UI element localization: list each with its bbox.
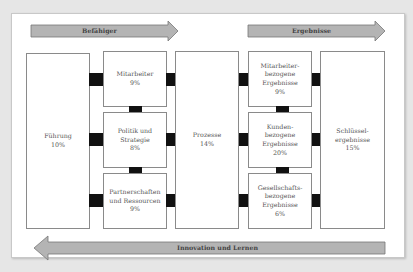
box-schluessel-label: Schlüssel- ergebnisse 15% — [335, 127, 370, 153]
innovation-arrow-label: Innovation und Lernen — [50, 244, 385, 251]
connector — [129, 167, 142, 173]
box-prozesse-label: Prozesse 14% — [193, 131, 221, 148]
box-kunden-ergebnisse-label: Kunden- bezogene Ergebnisse 20% — [262, 123, 298, 157]
box-mitarbeiter-ergebnisse-label: Mitarbeiter- bezogene Ergebnisse 9% — [261, 62, 300, 96]
connector — [312, 133, 320, 146]
box-mitarbeiter-label: Mitarbeiter 9% — [117, 70, 154, 87]
connector — [239, 73, 248, 86]
connector — [89, 133, 103, 146]
box-partnerschaften: Partnerschaften und Ressourcen 9% — [103, 173, 167, 229]
connector — [166, 73, 175, 86]
connector — [239, 133, 248, 146]
box-gesellschaft-ergebnisse: Gesellschafts- bezogene Ergebnisse 6% — [248, 173, 312, 229]
connector — [276, 167, 289, 173]
box-politik-strategie: Politik und Strategie 8% — [103, 112, 167, 168]
connector — [89, 73, 103, 86]
box-schluesselergebnisse: Schlüssel- ergebnisse 15% — [320, 51, 385, 229]
box-gesellschaft-ergebnisse-label: Gesellschafts- bezogene Ergebnisse 6% — [258, 184, 303, 218]
connector — [129, 106, 142, 112]
box-mitarbeiter: Mitarbeiter 9% — [103, 51, 167, 107]
enablers-arrow-label: Befähiger — [31, 27, 168, 34]
box-fuehrung-label: Führung 10% — [44, 132, 72, 149]
box-mitarbeiter-ergebnisse: Mitarbeiter- bezogene Ergebnisse 9% — [248, 51, 312, 107]
box-politik-label: Politik und Strategie 8% — [118, 127, 152, 153]
box-partner-label: Partnerschaften und Ressourcen 9% — [109, 188, 160, 214]
results-arrow-label: Ergebnisse — [248, 27, 375, 34]
box-prozesse: Prozesse 14% — [175, 51, 239, 229]
connector — [276, 106, 289, 112]
connector — [166, 133, 175, 146]
box-kunden-ergebnisse: Kunden- bezogene Ergebnisse 20% — [248, 112, 312, 168]
connector — [89, 194, 103, 207]
box-fuehrung: Führung 10% — [26, 53, 90, 229]
connector — [312, 194, 320, 207]
connector — [166, 194, 175, 207]
connector — [312, 73, 320, 86]
connector — [239, 194, 248, 207]
